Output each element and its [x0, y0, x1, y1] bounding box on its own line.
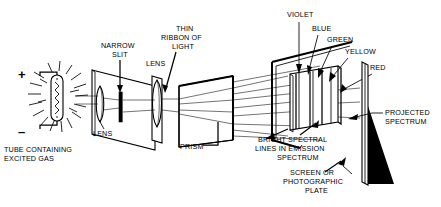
color-label-blue: BLUE [312, 24, 331, 33]
right-lens-label: LENS [146, 59, 165, 68]
discharge-tube-body [51, 75, 63, 121]
narrow-slit [119, 92, 122, 122]
spectroscopy-diagram: + – TUBE CONTAINING EXCITED GAS LENS NAR… [0, 0, 441, 207]
tube-label-line1: TUBE CONTAINING [4, 145, 72, 154]
screen-label-line3: PLATE [305, 186, 328, 195]
color-label-violet: VIOLET [287, 10, 314, 19]
screen-label-line2: PHOTOGRAPHIC [283, 177, 343, 186]
thin-ribbon-line3: LIGHT [172, 42, 194, 51]
diagram-canvas: + – TUBE CONTAINING EXCITED GAS LENS NAR… [0, 0, 441, 207]
focusing-lens [153, 80, 162, 127]
tube-label-line2: EXCITED GAS [4, 154, 54, 163]
color-label-green: GREEN [327, 35, 353, 44]
projected-spectrum-line2: SPECTRUM [385, 117, 427, 126]
prism-label: PRISM [180, 142, 204, 151]
bright-spectral-line1: BRIGHT SPECTRAL [258, 135, 327, 144]
narrow-slit-label-line1: NARROW [101, 41, 135, 50]
narrow-slit-label-line2: SLIT [112, 50, 128, 59]
color-label-yellow: YELLOW [345, 47, 376, 56]
positive-terminal-sign: + [18, 67, 26, 82]
left-lens-label: LENS [93, 129, 112, 138]
projected-spectrum-line1: PROJECTED [385, 108, 430, 117]
gas-particle-top [56, 78, 58, 80]
gas-particle-bottom [56, 116, 58, 118]
negative-terminal-sign: – [18, 124, 25, 139]
thin-ribbon-line2: RIBBON OF [161, 33, 202, 42]
screen-label-line1: SCREEN OR [290, 168, 334, 177]
color-label-red: RED [370, 63, 386, 72]
thin-ribbon-line1: THIN [176, 24, 193, 33]
bright-spectral-line2: LINES IN EMISSION [255, 144, 325, 153]
prism-assembly: PRISM [179, 76, 233, 151]
bright-spectral-line3: SPECTRUM [277, 153, 319, 162]
